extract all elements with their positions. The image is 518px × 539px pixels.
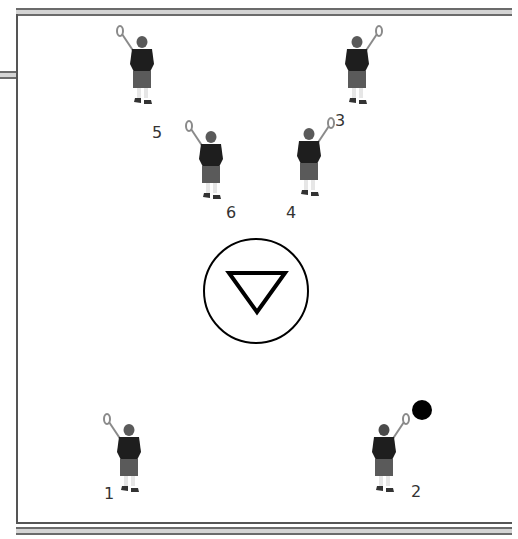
player-4-number-label: 4	[286, 205, 296, 221]
player-2-icon	[372, 414, 409, 492]
goal-triangle-icon	[229, 273, 285, 312]
player-3-icon	[345, 26, 382, 104]
field-canvas	[0, 0, 518, 539]
ball-icon	[412, 400, 432, 420]
player-6-number-label: 6	[226, 205, 236, 221]
player-6-icon	[186, 121, 223, 199]
player-3-number-label: 3	[335, 113, 345, 129]
player-1-number-label: 1	[104, 486, 114, 502]
player-2-number-label: 2	[411, 484, 421, 500]
player-1-icon	[104, 414, 141, 492]
goal-crease	[204, 239, 308, 343]
player-5-icon	[117, 26, 154, 104]
player-5-number-label: 5	[152, 125, 162, 141]
player-4-icon	[297, 118, 334, 196]
